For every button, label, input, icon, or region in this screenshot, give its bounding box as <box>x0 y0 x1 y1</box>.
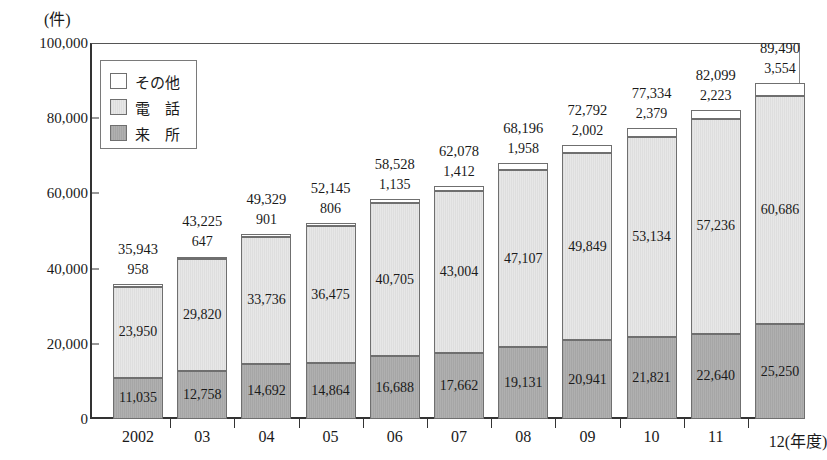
sonota-value-label: 3,554 <box>764 61 796 77</box>
bar-total-label: 89,490 <box>760 40 800 57</box>
bar-segment-raisho[interactable]: 14,692 <box>241 364 291 419</box>
bar-segment-sonota[interactable]: 958 <box>113 284 163 288</box>
bar-06[interactable]: 16,68840,7051,135 <box>370 199 420 419</box>
sonota-value-label: 901 <box>256 212 277 228</box>
bar-segment-value: 36,475 <box>311 287 350 303</box>
y-tick-mark <box>90 118 99 119</box>
bar-segment-denwa[interactable]: 53,134 <box>627 137 677 337</box>
bar-12[interactable]: 25,25060,6863,554 <box>755 83 805 419</box>
y-tick-mark <box>90 343 99 344</box>
y-tick-label: 20,000 <box>47 335 88 352</box>
bar-segment-value: 20,941 <box>568 372 607 388</box>
legend-label-denwa: 電 話 <box>135 97 180 118</box>
x-tick-label: 09 <box>579 428 595 446</box>
bar-segment-raisho[interactable]: 11,035 <box>113 378 163 419</box>
bar-segment-value: 14,692 <box>247 383 286 399</box>
bar-10[interactable]: 21,82153,1342,379 <box>627 128 677 419</box>
bar-segment-raisho[interactable]: 14,864 <box>306 363 356 419</box>
x-tick-label: 03 <box>194 428 210 446</box>
bar-total-label: 52,145 <box>311 180 351 197</box>
bar-03[interactable]: 12,75829,820647 <box>177 256 227 419</box>
bar-segment-value: 53,134 <box>632 229 671 245</box>
y-axis: 020,00040,00060,00080,000100,000 <box>0 0 88 460</box>
bar-segment-raisho[interactable]: 12,758 <box>177 371 227 419</box>
sonota-value-label: 647 <box>192 234 213 250</box>
bar-total-label: 62,078 <box>439 143 479 160</box>
x-tick-mark <box>620 419 621 428</box>
bar-segment-raisho[interactable]: 16,688 <box>370 356 420 419</box>
bar-09[interactable]: 20,94149,8492,002 <box>562 145 612 419</box>
legend-swatch-denwa-icon <box>110 99 127 115</box>
y-tick-label: 60,000 <box>47 185 88 202</box>
x-tick-label: 11 <box>708 428 723 446</box>
bar-08[interactable]: 19,13147,1071,958 <box>498 163 548 419</box>
bar-segment-sonota[interactable]: 1,135 <box>370 199 420 203</box>
bar-total-label: 77,334 <box>632 85 672 102</box>
sonota-value-label: 958 <box>128 262 149 278</box>
bar-segment-denwa[interactable]: 43,004 <box>434 191 484 353</box>
bar-segment-denwa[interactable]: 23,950 <box>113 287 163 377</box>
bar-segment-raisho[interactable]: 21,821 <box>627 337 677 419</box>
bar-segment-raisho[interactable]: 22,640 <box>691 334 741 419</box>
legend-item-sonota: その他 <box>110 68 196 94</box>
x-tick-mark <box>170 419 171 428</box>
bar-segment-denwa[interactable]: 60,686 <box>755 96 805 324</box>
y-tick-label: 80,000 <box>47 110 88 127</box>
bar-segment-denwa[interactable]: 57,236 <box>691 119 741 334</box>
bar-total-label: 72,792 <box>567 102 607 119</box>
bar-total-label: 49,329 <box>246 191 286 208</box>
bar-11[interactable]: 22,64057,2362,223 <box>691 110 741 419</box>
bar-05[interactable]: 14,86436,475806 <box>306 223 356 419</box>
bar-segment-sonota[interactable]: 1,958 <box>498 163 548 170</box>
bar-2002[interactable]: 11,03523,950958 <box>113 284 163 419</box>
bar-segment-denwa[interactable]: 40,705 <box>370 203 420 356</box>
bar-segment-raisho[interactable]: 25,250 <box>755 324 805 419</box>
bar-segment-value: 40,705 <box>376 272 415 288</box>
bar-segment-sonota[interactable]: 2,379 <box>627 128 677 137</box>
bar-segment-denwa[interactable]: 36,475 <box>306 226 356 363</box>
legend-swatch-raisho-icon <box>110 125 127 141</box>
sonota-value-label: 2,223 <box>700 88 732 104</box>
bar-total-label: 58,528 <box>375 156 415 173</box>
bar-segment-raisho[interactable]: 19,131 <box>498 347 548 419</box>
bar-segment-raisho[interactable]: 20,941 <box>562 340 612 419</box>
legend-label-raisho: 来 所 <box>135 123 180 144</box>
bar-segment-value: 49,849 <box>568 239 607 255</box>
x-tick-label: 04 <box>258 428 274 446</box>
bar-segment-raisho[interactable]: 17,662 <box>434 353 484 419</box>
x-tick-mark <box>299 419 300 428</box>
bar-segment-value: 12,758 <box>183 387 222 403</box>
bar-segment-value: 47,107 <box>504 251 543 267</box>
sonota-value-label: 2,002 <box>572 123 604 139</box>
bar-segment-sonota[interactable]: 901 <box>241 234 291 237</box>
x-tick-mark <box>234 419 235 428</box>
bar-segment-denwa[interactable]: 49,849 <box>562 153 612 340</box>
bar-segment-sonota[interactable]: 2,223 <box>691 110 741 118</box>
x-tick-label: 08 <box>515 428 531 446</box>
bar-segment-value: 23,950 <box>119 324 158 340</box>
x-tick-label: 10 <box>644 428 660 446</box>
bar-segment-value: 60,686 <box>761 202 800 218</box>
bar-segment-denwa[interactable]: 29,820 <box>177 259 227 371</box>
x-tick-label: 2002 <box>122 428 154 446</box>
bar-segment-value: 29,820 <box>183 307 222 323</box>
x-tick-mark <box>427 419 428 428</box>
legend-label-sonota: その他 <box>135 71 180 92</box>
x-tick-label: 05 <box>323 428 339 446</box>
bar-04[interactable]: 14,69233,736901 <box>241 234 291 419</box>
bar-07[interactable]: 17,66243,0041,412 <box>434 186 484 419</box>
y-tick-label: 100,000 <box>39 35 88 52</box>
bar-segment-sonota[interactable]: 2,002 <box>562 145 612 153</box>
bar-total-label: 35,943 <box>118 241 158 258</box>
bar-segment-sonota[interactable]: 1,412 <box>434 186 484 191</box>
legend-item-raisho: 来 所 <box>110 120 196 146</box>
bar-segment-sonota[interactable]: 806 <box>306 223 356 226</box>
bar-segment-denwa[interactable]: 33,736 <box>241 237 291 364</box>
sonota-value-label: 1,412 <box>443 164 475 180</box>
bar-segment-value: 22,640 <box>697 368 736 384</box>
bar-segment-sonota[interactable]: 647 <box>177 257 227 259</box>
bar-segment-sonota[interactable]: 3,554 <box>755 83 805 96</box>
bar-total-label: 68,196 <box>503 120 543 137</box>
bar-segment-value: 19,131 <box>504 375 543 391</box>
bar-segment-denwa[interactable]: 47,107 <box>498 170 548 347</box>
